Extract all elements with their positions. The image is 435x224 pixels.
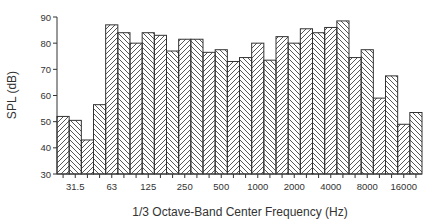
x-tick-label: 4000 xyxy=(320,181,341,192)
bar-12500hz xyxy=(386,76,398,174)
bar-80hz xyxy=(118,33,130,174)
y-tick-label: 60 xyxy=(40,90,51,101)
x-axis-label: 1/3 Octave-Band Center Frequency (Hz) xyxy=(132,205,347,219)
x-tick-label: 63 xyxy=(106,181,117,192)
y-tick-label: 70 xyxy=(40,64,51,75)
bar-125hz xyxy=(142,33,154,174)
bar-315hz xyxy=(191,39,203,174)
bar-40hz xyxy=(81,140,93,174)
bar-25hz xyxy=(57,116,69,174)
bar-2000hz xyxy=(288,43,300,174)
y-tick-label: 90 xyxy=(40,12,51,23)
bar-100hz xyxy=(130,43,142,174)
bar-31.5hz xyxy=(69,120,81,174)
x-axis: 31.563125250500100020004000800016000 xyxy=(57,174,422,192)
bar-630hz xyxy=(227,61,239,174)
bar-200hz xyxy=(167,51,179,174)
bar-160hz xyxy=(154,35,166,174)
bar-4000hz xyxy=(325,27,337,174)
bar-5000hz xyxy=(337,21,349,174)
x-tick-label: 8000 xyxy=(357,181,378,192)
bar-16000hz xyxy=(398,124,410,174)
x-tick-label: 31.5 xyxy=(66,181,85,192)
bar-250hz xyxy=(179,39,191,174)
bars xyxy=(57,21,422,174)
bar-1250hz xyxy=(264,60,276,174)
bar-6300hz xyxy=(349,58,361,174)
bar-10000hz xyxy=(373,98,385,174)
bar-1000hz xyxy=(252,43,264,174)
bar-500hz xyxy=(215,50,227,174)
bar-1600hz xyxy=(276,37,288,174)
bar-400hz xyxy=(203,52,215,174)
bar-50hz xyxy=(94,105,106,174)
y-axis-label: SPL (dB) xyxy=(5,71,19,119)
x-tick-label: 16000 xyxy=(391,181,417,192)
y-tick-label: 40 xyxy=(40,142,51,153)
bar-2500hz xyxy=(300,29,312,174)
bar-800hz xyxy=(240,58,252,174)
y-tick-label: 30 xyxy=(40,169,51,180)
x-tick-label: 125 xyxy=(140,181,156,192)
y-axis: 30405060708090 xyxy=(40,12,57,180)
x-tick-label: 250 xyxy=(177,181,193,192)
bar-3150hz xyxy=(313,33,325,174)
x-tick-label: 2000 xyxy=(284,181,305,192)
bar-63hz xyxy=(106,25,118,174)
spl-bar-chart: 30405060708090 31.5631252505001000200040… xyxy=(0,0,435,224)
x-tick-label: 500 xyxy=(213,181,229,192)
x-tick-label: 1000 xyxy=(247,181,268,192)
bar-8000hz xyxy=(361,50,373,174)
bar-20000hz xyxy=(410,113,422,174)
y-tick-label: 80 xyxy=(40,38,51,49)
y-tick-label: 50 xyxy=(40,116,51,127)
